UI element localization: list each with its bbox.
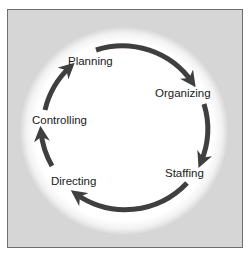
- cycle-diagram: [0, 0, 248, 254]
- stage-label-directing: Directing: [51, 176, 96, 188]
- ring-background: [20, 27, 228, 235]
- stage-label-organizing: Organizing: [155, 88, 211, 100]
- stage-label-planning: Planning: [68, 56, 113, 68]
- stage-label-staffing: Staffing: [165, 168, 204, 180]
- stage-label-controlling: Controlling: [32, 115, 87, 127]
